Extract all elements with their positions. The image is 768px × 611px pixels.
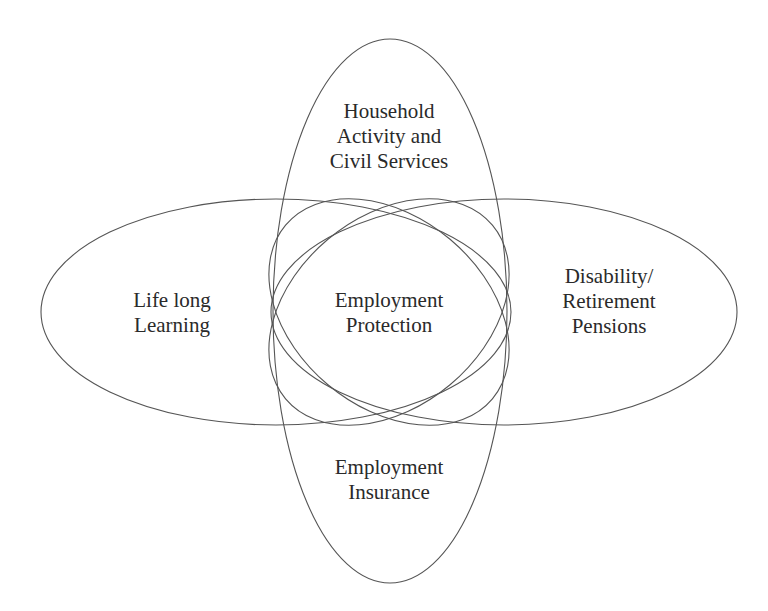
label-line: Household [330, 99, 448, 124]
label-line: Civil Services [330, 149, 448, 174]
label-employment-protection: Employment Protection [335, 288, 444, 338]
label-line: Life long [133, 288, 211, 313]
label-line: Learning [133, 313, 211, 338]
label-employment-insurance: Employment Insurance [335, 455, 444, 505]
label-line: Protection [335, 313, 444, 338]
label-line: Employment [335, 288, 444, 313]
label-line: Employment [335, 455, 444, 480]
label-line: Pensions [562, 314, 655, 339]
label-household-activity: Household Activity and Civil Services [330, 99, 448, 174]
label-disability-pensions: Disability/ Retirement Pensions [562, 264, 655, 339]
label-line: Activity and [330, 124, 448, 149]
label-line: Disability/ [562, 264, 655, 289]
label-line: Retirement [562, 289, 655, 314]
label-lifelong-learning: Life long Learning [133, 288, 211, 338]
label-line: Insurance [335, 480, 444, 505]
